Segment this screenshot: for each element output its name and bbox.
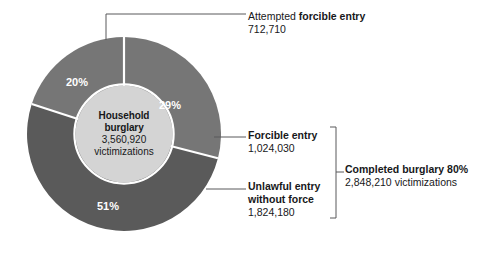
- slice-label-unlawful-entry: 51%: [97, 200, 119, 212]
- callout-unlawful-entry: Unlawful entry without force 1,824,180: [248, 180, 320, 219]
- callout-unlawful-label-line1: Unlawful entry: [248, 180, 320, 193]
- callout-completed-value: 2,848,210 victimizations: [345, 176, 468, 189]
- callout-attempted-forcible-entry: Attempted forcible entry 712,710: [248, 10, 365, 36]
- callout-forcible-value: 1,024,030: [248, 142, 317, 155]
- burglary-donut-chart-figure: 29% 51% 20% Household burglary 3,560,920…: [0, 0, 500, 254]
- callout-completed-burglary: Completed burglary 80% 2,848,210 victimi…: [345, 163, 468, 189]
- callout-completed-label: Completed burglary 80%: [345, 163, 468, 176]
- completed-burglary-bracket: [330, 127, 336, 218]
- slice-label-forcible-entry: 29%: [159, 99, 181, 111]
- slice-label-attempted-forcible-entry: 20%: [66, 76, 88, 88]
- callout-unlawful-value: 1,824,180: [248, 206, 320, 219]
- callout-attempted-label-regular: Attempted: [248, 10, 299, 22]
- callout-forcible-entry: Forcible entry 1,024,030: [248, 129, 317, 155]
- callout-attempted-label-bold: forcible entry: [299, 10, 366, 22]
- donut-hub: [76, 86, 173, 183]
- callout-attempted-value: 712,710: [248, 23, 365, 36]
- callout-forcible-label: Forcible entry: [248, 129, 317, 142]
- callout-unlawful-label-line2: without force: [248, 193, 320, 206]
- donut-chart: 29% 51% 20%: [27, 37, 221, 231]
- donut-svg: 29% 51% 20%: [27, 37, 221, 231]
